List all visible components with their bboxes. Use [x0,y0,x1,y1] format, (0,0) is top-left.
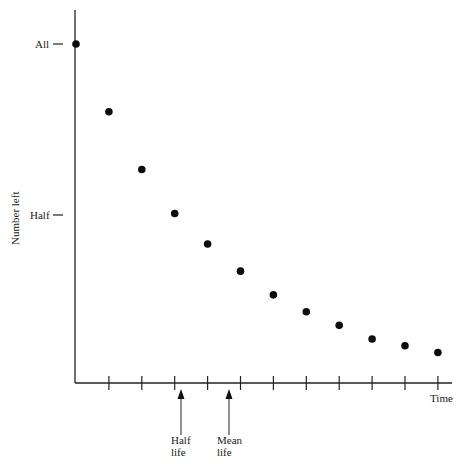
data-point [434,349,442,357]
data-point [237,267,245,275]
data-point [138,166,146,174]
mean-life-arrowhead [226,389,233,399]
data-point [335,322,343,330]
mean-life-label-1: Mean [217,434,243,446]
data-point [270,291,278,299]
data-point [171,210,179,218]
chart: All Half Number left Time Half life Mean… [0,0,464,466]
data-point [368,335,376,343]
data-point [72,40,80,48]
half-life-label-2: life [171,446,186,458]
y-axis-label: Number left [9,192,21,245]
x-axis-label: Time [430,392,453,404]
y-tick-label-all: All [35,38,49,50]
half-life-arrowhead [178,389,185,399]
data-point [105,108,113,116]
mean-life-label-2: life [217,446,232,458]
y-tick-label-half: Half [30,209,50,221]
data-point [401,342,409,350]
half-life-label-1: Half [171,434,191,446]
data-points [72,40,442,356]
data-point [204,240,212,248]
data-point [303,308,311,316]
